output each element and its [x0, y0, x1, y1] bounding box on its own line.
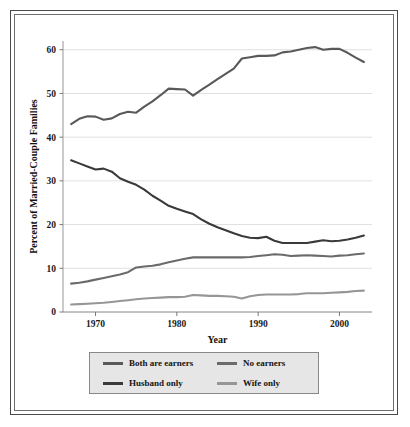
legend-label-husband-only: Husband only: [129, 379, 183, 388]
series-line-both-are-earners: [71, 47, 364, 124]
x-tick-label-1970: 1970: [86, 319, 105, 329]
y-tick-label-0: 0: [51, 307, 56, 317]
legend-entry-both-are-earners[interactable]: Both are earners: [90, 359, 204, 368]
series-line-wife-only: [71, 291, 364, 305]
y-tick-label-20: 20: [47, 220, 57, 230]
x-tick-label-1980: 1980: [167, 319, 186, 329]
y-tick-label-60: 60: [47, 45, 57, 55]
y-axis-title: Percent of Married-Couple Families: [28, 99, 39, 254]
y-tick-label-50: 50: [47, 89, 57, 99]
y-tick-label-40: 40: [47, 133, 57, 143]
y-tick-label-10: 10: [47, 264, 57, 274]
x-axis-title: Year: [208, 334, 229, 345]
legend-label-no-earners: No earners: [243, 359, 285, 368]
chart-legend: Both are earners No earners Husband only…: [89, 352, 319, 394]
legend-entry-wife-only[interactable]: Wife only: [204, 379, 318, 388]
legend-entry-no-earners[interactable]: No earners: [204, 359, 318, 368]
legend-label-wife-only: Wife only: [243, 379, 280, 388]
legend-swatch-no-earners: [217, 362, 237, 365]
series-line-husband-only: [71, 160, 364, 243]
legend-swatch-wife-only: [217, 382, 237, 385]
y-tick-label-30: 30: [47, 176, 57, 186]
x-tick-label-2000: 2000: [330, 319, 349, 329]
x-tick-label-1990: 1990: [249, 319, 268, 329]
legend-swatch-both-are-earners: [103, 362, 123, 365]
figure-container: 01020304050601970198019902000YearPercent…: [0, 0, 410, 427]
legend-entry-husband-only[interactable]: Husband only: [90, 379, 204, 388]
legend-swatch-husband-only: [103, 382, 123, 385]
legend-label-both-are-earners: Both are earners: [129, 359, 193, 368]
